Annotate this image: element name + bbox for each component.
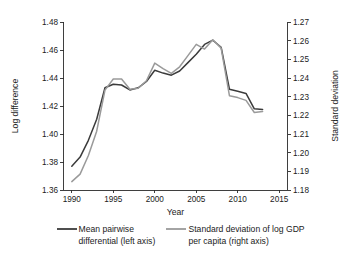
y-left-tick-label: 1.42	[42, 102, 58, 111]
chart-figure: 1.361.381.401.421.441.461.481.181.191.20…	[0, 0, 351, 268]
x-tick-label: 1995	[104, 195, 123, 204]
series-line-mean-pairwise-differential	[72, 40, 263, 166]
y-left-tick-label: 1.40	[42, 130, 58, 139]
y-left-tick-label: 1.44	[42, 74, 58, 83]
y-right-tick-label: 1.25	[293, 55, 309, 64]
y-left-axis-title: Log difference	[10, 79, 20, 134]
legend-label-std-dev-log-gdp-line2: per capita (right axis)	[189, 236, 269, 246]
x-tick-label: 2005	[187, 195, 206, 204]
y-right-tick-label: 1.21	[293, 130, 309, 139]
line-chart: 1.361.381.401.421.441.461.481.181.191.20…	[0, 0, 351, 268]
y-right-tick-label: 1.19	[293, 167, 309, 176]
y-right-tick-label: 1.18	[293, 186, 309, 195]
series-line-std-dev-log-gdp	[72, 40, 263, 182]
x-tick-label: 2015	[270, 195, 289, 204]
legend-label-mean-pairwise-differential-line1: Mean pairwise	[79, 224, 135, 234]
y-left-tick-label: 1.48	[42, 18, 58, 27]
x-tick-label: 2000	[146, 195, 165, 204]
y-right-tick-label: 1.24	[293, 74, 309, 83]
y-left-tick-label: 1.46	[42, 46, 58, 55]
y-right-tick-label: 1.26	[293, 37, 309, 46]
legend-label-mean-pairwise-differential-line2: differential (left axis)	[79, 236, 156, 246]
x-tick-label: 2010	[229, 195, 248, 204]
y-left-tick-label: 1.36	[42, 186, 58, 195]
y-right-tick-label: 1.20	[293, 149, 309, 158]
y-left-tick-label: 1.38	[42, 158, 58, 167]
plot-area: 1.361.381.401.421.441.461.481.181.191.20…	[10, 18, 341, 246]
x-tick-label: 1990	[63, 195, 82, 204]
legend-label-std-dev-log-gdp-line1: Standard deviation of log GDP	[189, 224, 305, 234]
y-right-axis-title: Standard deviation	[330, 70, 340, 142]
y-right-tick-label: 1.22	[293, 111, 309, 120]
x-axis-title: Year	[167, 207, 185, 217]
y-right-tick-label: 1.23	[293, 93, 309, 102]
y-right-tick-label: 1.27	[293, 18, 309, 27]
